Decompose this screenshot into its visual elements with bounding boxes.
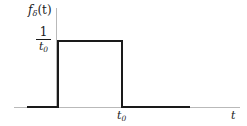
fraction-numerator: 1: [33, 26, 54, 39]
x-tick-subscript: 0: [121, 114, 126, 123]
y-axis-tick-label-amplitude: 1 t0: [33, 26, 54, 54]
x-axis-label: t: [231, 110, 235, 121]
trace-falling-edge: [121, 40, 123, 108]
y-axis-label-argument: (t): [37, 3, 51, 17]
trace-baseline-left: [27, 106, 59, 108]
trace-baseline-right: [121, 106, 190, 108]
y-axis-label: fδ(t): [28, 4, 52, 17]
fraction-denominator-subscript: 0: [43, 45, 48, 54]
x-axis-tick-label-t0: t0: [117, 110, 126, 123]
pulse-figure: fδ(t) 1 t0 t0 t: [0, 0, 247, 126]
trace-rising-edge: [57, 40, 59, 108]
trace-pulse-top: [57, 40, 123, 42]
fraction-denominator: t0: [33, 40, 54, 54]
